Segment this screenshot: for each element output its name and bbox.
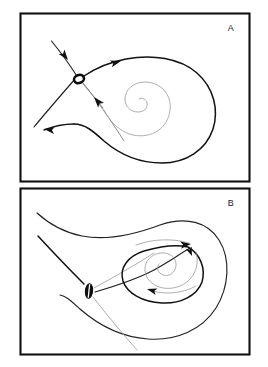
phase-portrait-figure: A [0, 0, 268, 367]
panel-a-frame [21, 14, 250, 182]
panel-b: B [21, 189, 250, 355]
panel-a-label: A [228, 23, 234, 33]
panel-a: A [21, 14, 250, 182]
panel-b-label: B [228, 198, 234, 208]
panel-b-frame [21, 189, 250, 355]
figure-root: A [0, 0, 268, 367]
